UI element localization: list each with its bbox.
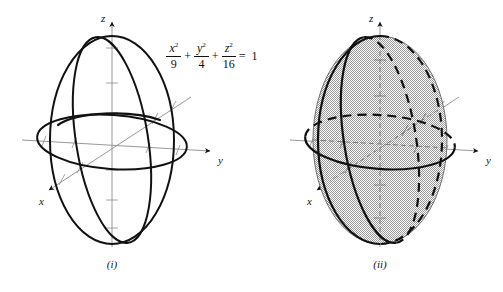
equation-term-z: z2 16 <box>222 42 236 70</box>
equation-term-x: x2 9 <box>166 42 181 70</box>
equation-term-z-denominator: 16 <box>223 57 235 71</box>
panel-ii-group: x y z (ii) <box>290 12 491 271</box>
panel-i-z-label: z <box>100 12 106 24</box>
equation-term-y-denominator: 4 <box>198 57 204 71</box>
equation-equals-sign: = <box>236 50 249 62</box>
panel-ii-x-label: x <box>306 195 312 207</box>
panel-ii-z-label: z <box>368 12 374 24</box>
figure-root: x y z (i) <box>0 0 503 292</box>
panel-ii-caption: (ii) <box>373 258 387 271</box>
equation-right-hand-side: 1 <box>249 50 258 62</box>
equation-term-y-numerator: y2 <box>194 42 209 57</box>
panel-ii-y-label: y <box>485 154 491 166</box>
equation-term-x-numerator: x2 <box>166 42 181 57</box>
equation-term-z-numerator: z2 <box>222 42 236 57</box>
equation-term-x-denominator: 9 <box>171 57 177 71</box>
equation-operator-2: + <box>209 50 222 62</box>
equation-term-y: y2 4 <box>194 42 209 70</box>
ellipsoid-equation: x2 9 + y2 4 + z2 16 = 1 <box>152 38 272 74</box>
equation-operator-1: + <box>181 50 194 62</box>
panel-i-y-label: y <box>217 154 223 166</box>
panel-i-caption: (i) <box>107 258 118 271</box>
panel-i-x-label: x <box>38 195 44 207</box>
